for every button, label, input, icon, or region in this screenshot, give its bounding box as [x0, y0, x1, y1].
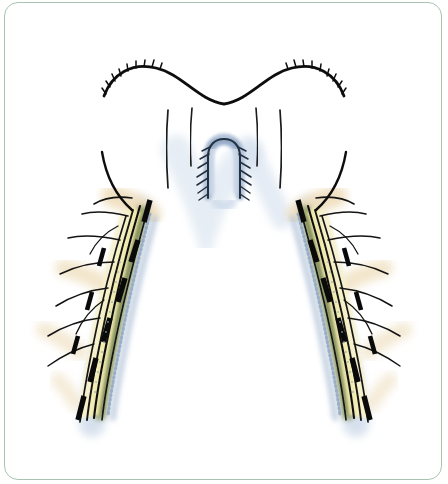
central-blue-haze-2	[250, 150, 282, 218]
inner-vertical-4	[280, 110, 282, 188]
right-dash-outer-2	[356, 292, 361, 310]
left-tan-wash-mid	[64, 268, 106, 286]
left-dash-outer-2	[87, 292, 92, 310]
left-tan-wash-bottom	[58, 380, 76, 404]
right-tan-wash-mid	[342, 268, 384, 286]
right-tan-wash-bottom	[372, 380, 390, 404]
superior-wavy-margin	[102, 60, 346, 104]
anatomical-illustration-canvas	[0, 0, 448, 484]
right-dash-outer-1	[344, 248, 349, 266]
central-u-lower-smudge	[216, 202, 232, 207]
top-wave-hatches-left	[102, 60, 162, 94]
top-wave-main	[104, 66, 344, 104]
left-dash-outer-1	[99, 248, 104, 266]
top-wave-hatches-right	[286, 60, 346, 94]
left-branch-3	[68, 236, 120, 240]
right-branch-3	[328, 236, 380, 240]
figure-root: Line-and-wash medical drawing of a symme…	[0, 0, 448, 484]
